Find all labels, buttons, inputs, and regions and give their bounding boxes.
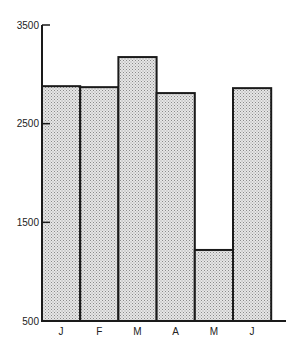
x-tick-label: A	[172, 326, 179, 337]
y-tick-label: 3500	[17, 20, 40, 31]
bar-4	[195, 250, 233, 321]
bar-0	[42, 86, 80, 321]
x-tick-label: F	[96, 326, 102, 337]
bar-3	[157, 93, 195, 321]
bar-5	[233, 88, 271, 321]
bars-group	[42, 57, 271, 321]
y-tick-label: 500	[22, 316, 39, 327]
y-tick-label: 2500	[17, 118, 40, 129]
bar-chart: JFMAMJ500150025003500	[0, 0, 304, 350]
x-tick-label: M	[210, 326, 218, 337]
x-tick-label: M	[133, 326, 141, 337]
y-tick-label: 1500	[17, 217, 40, 228]
x-tick-label: J	[59, 326, 64, 337]
x-tick-label: J	[250, 326, 255, 337]
bar-1	[80, 87, 118, 321]
chart-canvas: JFMAMJ500150025003500	[0, 0, 304, 350]
bar-2	[118, 57, 156, 321]
